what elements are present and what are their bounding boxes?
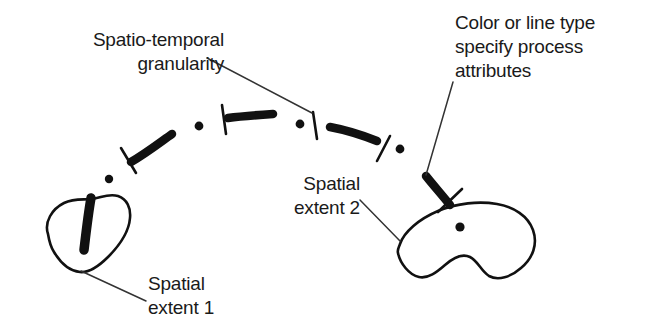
spatial-extent-2-group (360, 200, 535, 278)
leader-line-icon-extent2 (360, 200, 400, 241)
diagram-canvas: Spatio-temporal granularity Color or lin… (0, 0, 659, 335)
dot-icon-2 (195, 122, 204, 131)
label-color-or-line-type: Color or line type specify process attri… (455, 11, 655, 83)
granularity-tick-icon-3 (313, 112, 317, 139)
thick-dash-icon-1 (131, 134, 172, 162)
label-spatial-extent-1: Spatial extent 1 (148, 272, 288, 320)
dot-icon-3 (296, 120, 305, 129)
spatial-extent-1-group (47, 195, 146, 301)
spatial-extent-blob-icon-right (398, 203, 535, 279)
label-spatio-temporal-granularity: Spatio-temporal granularity (28, 28, 224, 76)
dot-icon-extent2 (455, 222, 464, 231)
leader-line-icon-extent1 (81, 271, 146, 301)
thick-dash-icon-extent1 (84, 198, 91, 250)
dot-icon-4 (396, 145, 405, 154)
label-spatial-extent-2: Spatial extent 2 (228, 172, 360, 220)
leader-line-icon-attributes (426, 82, 453, 175)
thick-dash-icon-3 (330, 127, 377, 141)
thick-dash-icon-2 (228, 114, 273, 118)
thick-dash-icon-4 (426, 176, 450, 205)
dot-icon-1 (105, 175, 113, 183)
